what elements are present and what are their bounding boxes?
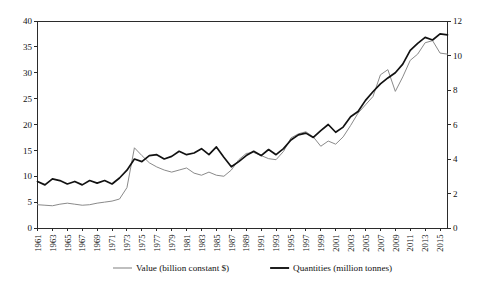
y-axis-left-tick-label: 25 [23, 94, 33, 104]
y-axis-left-tick-label: 0 [28, 223, 33, 233]
x-axis-tick-label: 2005 [361, 235, 371, 252]
x-axis-tick-label: 1977 [152, 234, 162, 252]
x-axis-tick-label: 1993 [271, 235, 281, 252]
y-axis-right-tick-label: 2 [453, 189, 458, 199]
y-axis-left-tick-label: 20 [23, 120, 33, 130]
x-axis-tick-label: 2009 [391, 235, 401, 252]
x-axis-tick-label: 1997 [301, 234, 311, 252]
legend-label-quantities: Quantities (million tonnes) [293, 263, 392, 273]
x-axis-tick-label: 1965 [63, 235, 73, 252]
x-axis-tick-label: 1983 [197, 235, 207, 252]
y-axis-right-tick-label: 12 [453, 16, 462, 26]
x-axis-tick-label: 1967 [77, 234, 87, 252]
x-axis-tick-label: 1981 [182, 235, 192, 252]
x-axis-tick-label: 1973 [122, 235, 132, 252]
x-axis-tick-label: 1979 [167, 235, 177, 252]
x-axis-tick-label: 1969 [92, 235, 102, 252]
line-chart: 0510152025303540 024681012 1961196319651… [0, 0, 493, 286]
y-axis-left-tick-label: 35 [23, 42, 33, 52]
x-axis-tick-label: 2007 [376, 234, 386, 252]
x-axis-tick-label: 2001 [331, 235, 341, 252]
x-axis-tick-label: 1975 [137, 235, 147, 252]
y-axis-left-tick-label: 30 [23, 68, 33, 78]
x-axis-tick-label: 2013 [420, 235, 430, 252]
y-axis-left-tick-label: 5 [28, 197, 33, 207]
chart-container: 0510152025303540 024681012 1961196319651… [0, 0, 493, 286]
y-axis-right-tick-label: 8 [453, 85, 458, 95]
y-axis-right-tick-label: 4 [453, 154, 458, 164]
y-axis-left-tick-label: 15 [23, 146, 33, 156]
y-axis-left-tick-label: 10 [23, 171, 33, 181]
x-axis-tick-label: 1961 [33, 235, 43, 252]
x-axis-tick-label: 1985 [212, 235, 222, 252]
x-axis-tick-label: 2011 [405, 235, 415, 252]
y-axis-left-tick-label: 40 [23, 16, 33, 26]
x-axis-tick-label: 1987 [227, 234, 237, 252]
legend-label-value: Value (billion constant $) [136, 263, 229, 273]
x-axis-tick-label: 2003 [346, 235, 356, 252]
x-axis-tick-label: 2015 [435, 235, 445, 252]
y-axis-right-tick-label: 10 [453, 51, 463, 61]
y-axis-right-tick-label: 0 [453, 223, 458, 233]
x-axis-tick-label: 1971 [107, 235, 117, 252]
x-axis-tick-label: 1963 [48, 235, 58, 252]
x-axis-tick-label: 1995 [286, 235, 296, 252]
x-axis-tick-label: 1999 [316, 235, 326, 252]
y-axis-right-tick-label: 6 [453, 120, 458, 130]
x-axis-tick-label: 1991 [256, 235, 266, 252]
x-axis-tick-label: 1989 [241, 235, 251, 252]
